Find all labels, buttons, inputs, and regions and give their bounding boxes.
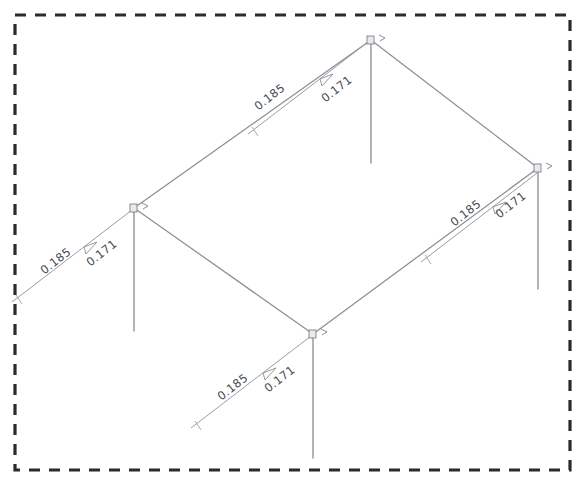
- diagram-canvas: 0.185 0.171 0.185 0.171 0.185 0.171 0.18…: [0, 0, 585, 488]
- load-bottom-shaft: [191, 336, 311, 428]
- column-group: [134, 40, 538, 458]
- load-right-shaft: [421, 170, 541, 262]
- load-top-shaft: [248, 42, 368, 134]
- load-vector-top: [248, 42, 368, 136]
- viewport-dashed-border: [15, 15, 570, 470]
- joint-marker-top: [367, 35, 385, 44]
- beam-bottom-right: [313, 168, 538, 334]
- frame-diagram-svg: 0.185 0.171 0.185 0.171 0.185 0.171 0.18…: [0, 0, 585, 488]
- beam-left-bottom: [134, 208, 313, 334]
- load-bottom-value-b: 0.171: [261, 363, 297, 395]
- load-vector-bottom: [191, 336, 311, 430]
- load-left-value-b: 0.171: [83, 237, 119, 269]
- joint-marker-right: [534, 163, 552, 172]
- load-vector-right: [421, 170, 541, 264]
- beam-left-top: [134, 40, 371, 208]
- beam-top-right: [371, 40, 538, 168]
- load-left-value-a: 0.185: [37, 245, 73, 277]
